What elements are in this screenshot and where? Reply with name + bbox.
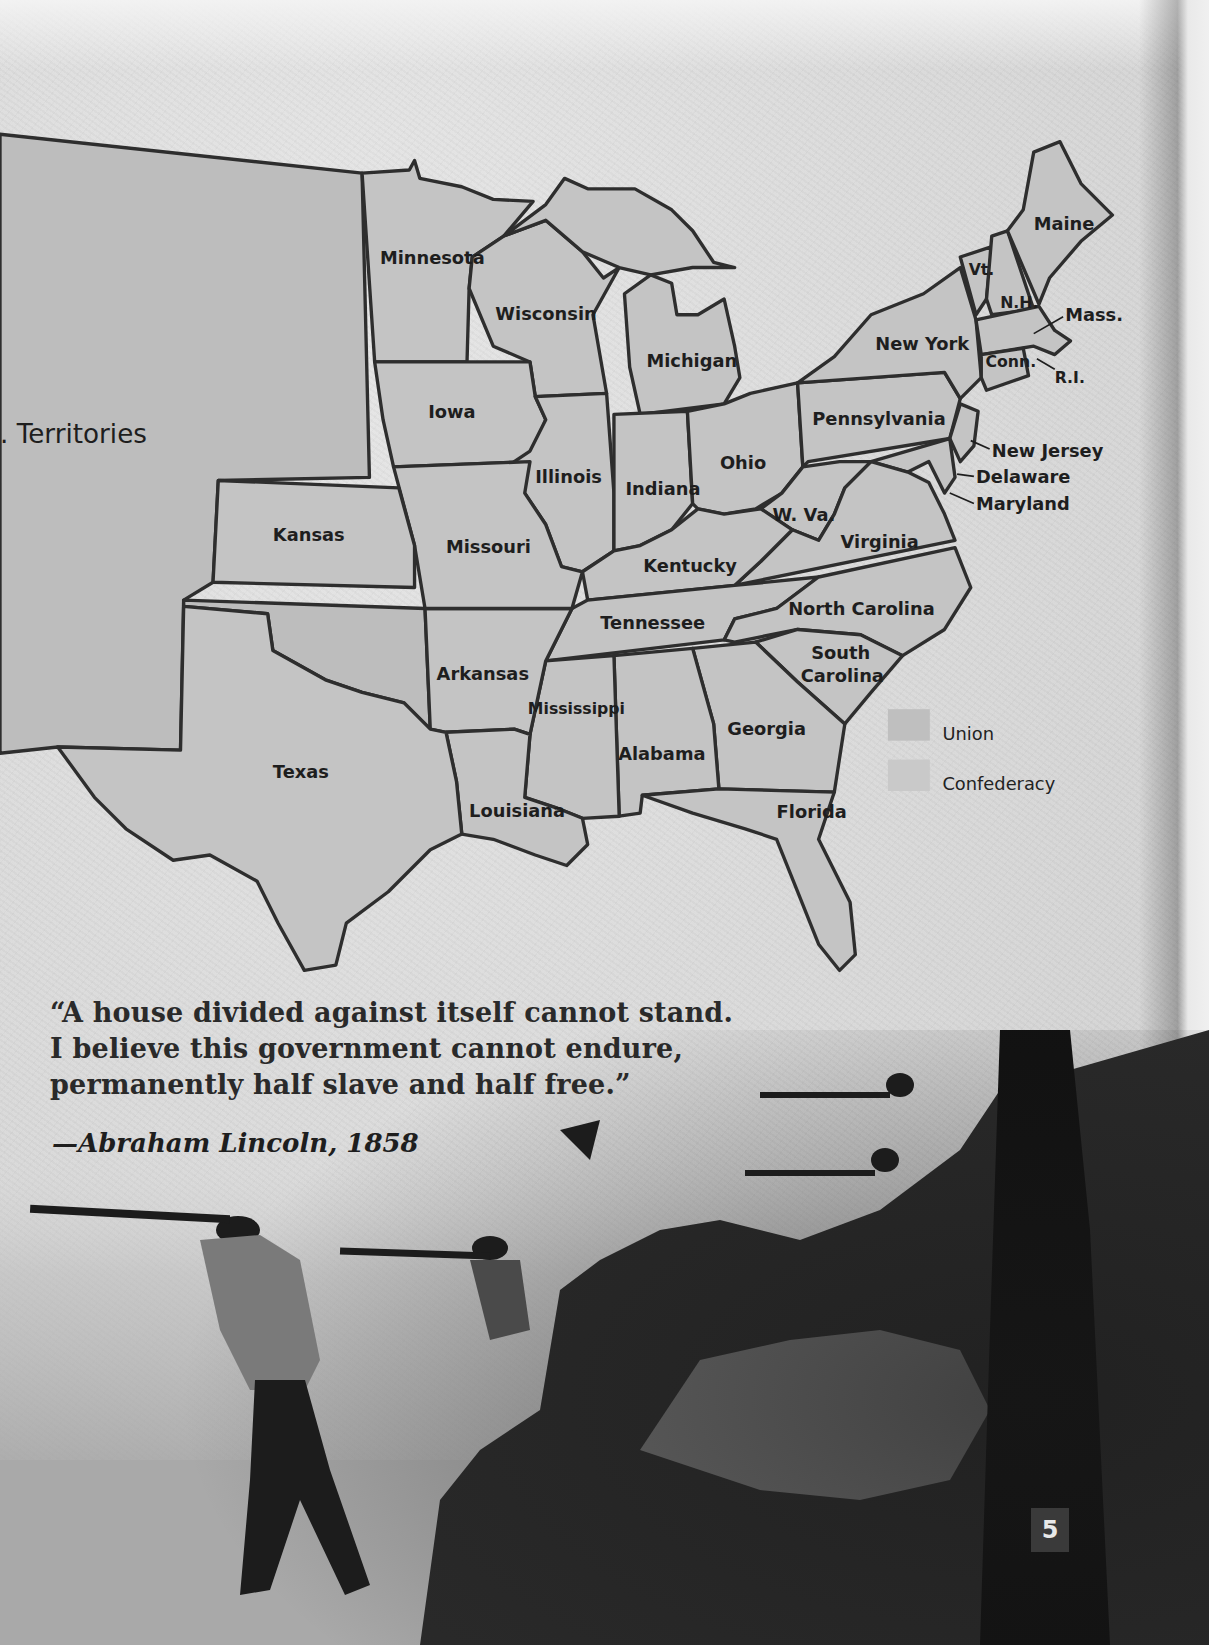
map-legend: Union Confederacy: [888, 709, 1056, 794]
label-pennsylvania: Pennsylvania: [812, 408, 945, 429]
legend-label-confederacy: Confederacy: [942, 773, 1055, 794]
label-south-carolina-1: South: [811, 642, 870, 663]
label-illinois: Illinois: [535, 466, 602, 487]
label-vermont: Vt.: [969, 260, 995, 279]
label-connecticut: Conn.: [985, 352, 1036, 371]
label-missouri: Missouri: [446, 536, 531, 557]
label-wisconsin: Wisconsin: [495, 303, 596, 324]
legend-swatch-confederacy: [888, 760, 930, 791]
label-louisiana: Louisiana: [469, 800, 565, 821]
leader-rhode-island: [1037, 359, 1055, 369]
label-florida: Florida: [777, 801, 847, 822]
label-rhode-island: R.I.: [1055, 368, 1085, 387]
quote-attribution: —Abraham Lincoln, 1858: [52, 1128, 419, 1158]
label-georgia: Georgia: [727, 718, 806, 739]
quote-line-3: permanently half slave and half free.”: [50, 1067, 870, 1103]
label-kansas: Kansas: [273, 524, 345, 545]
label-arkansas: Arkansas: [437, 663, 529, 684]
label-iowa: Iowa: [428, 401, 475, 422]
label-texas: Texas: [273, 761, 329, 782]
label-new-hampshire: N.H.: [1000, 293, 1038, 312]
legend-label-union: Union: [942, 723, 994, 744]
label-alabama: Alabama: [618, 743, 705, 764]
label-new-jersey: New Jersey: [992, 440, 1104, 461]
label-delaware: Delaware: [976, 466, 1070, 487]
state-michigan-lower: [624, 275, 739, 415]
label-new-york: New York: [875, 333, 970, 354]
label-mississippi: Mississippi: [528, 699, 625, 718]
territories-label: . Territories: [0, 419, 147, 449]
label-maryland: Maryland: [976, 493, 1070, 514]
label-kentucky: Kentucky: [643, 555, 737, 576]
civil-war-map: . Territories Minnesota Wisconsin Michig…: [0, 0, 1209, 1645]
label-michigan: Michigan: [646, 350, 737, 371]
quote-line-2: I believe this government cannot endure,: [50, 1031, 870, 1067]
label-tennessee: Tennessee: [600, 612, 705, 633]
label-massachusetts: Mass.: [1065, 304, 1123, 325]
leader-delaware: [957, 474, 974, 476]
label-maine: Maine: [1034, 213, 1095, 234]
label-virginia: Virginia: [841, 531, 919, 552]
label-indiana: Indiana: [625, 478, 700, 499]
page-number: 5: [1031, 1508, 1069, 1552]
legend-swatch-union: [888, 709, 930, 740]
label-north-carolina: North Carolina: [788, 598, 935, 619]
label-minnesota: Minnesota: [380, 247, 485, 268]
leader-maryland: [950, 493, 974, 503]
label-west-virginia: W. Va.: [772, 504, 835, 525]
lincoln-quote: “A house divided against itself cannot s…: [50, 995, 870, 1103]
label-south-carolina-2: Carolina: [801, 665, 884, 686]
quote-line-1: “A house divided against itself cannot s…: [50, 995, 870, 1031]
label-ohio: Ohio: [720, 452, 766, 473]
book-page: . Territories Minnesota Wisconsin Michig…: [0, 0, 1209, 1645]
